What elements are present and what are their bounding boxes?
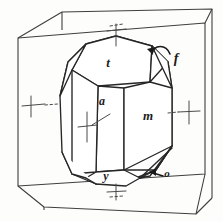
crystal-figure: t f a m y o (0, 0, 223, 222)
crystal-face-left-prism (72, 70, 98, 174)
crystal-body (60, 36, 172, 186)
cube-floor-back-edge (196, 198, 212, 214)
cube-top-face (18, 9, 212, 38)
face-label-f: f (174, 51, 180, 66)
crystal-diagram-svg: t f a m y o (0, 0, 223, 222)
face-label-t: t (106, 55, 110, 70)
face-label-y: y (101, 169, 109, 183)
face-label-a: a (99, 94, 105, 108)
axis-tick-right-icon (168, 101, 200, 124)
axis-tick-left-icon (22, 96, 58, 117)
face-label-m: m (143, 108, 153, 123)
face-label-o: o (164, 167, 170, 179)
